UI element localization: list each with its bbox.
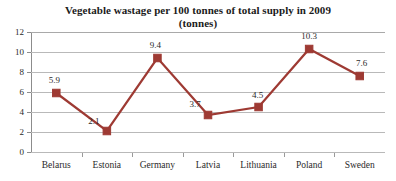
data-point-marker: [305, 45, 313, 53]
data-point-label: 2.1: [74, 117, 114, 126]
y-tick-mark-8: [27, 72, 31, 73]
y-axis-tick-label: 12: [4, 28, 24, 37]
y-axis-tick-label: 4: [4, 108, 24, 117]
y-axis-tick-label: 6: [4, 88, 24, 97]
series-line-and-markers: [0, 0, 396, 181]
data-point-marker: [154, 54, 162, 62]
data-point-label: 5.9: [34, 76, 74, 85]
data-point-label: 4.5: [238, 91, 278, 100]
x-tick-mark: [233, 153, 234, 157]
y-tick-mark-2: [27, 132, 31, 133]
y-axis-tick-label: 2: [4, 128, 24, 137]
x-tick-mark: [82, 153, 83, 157]
y-tick-mark-4: [27, 112, 31, 113]
x-tick-mark: [132, 153, 133, 157]
data-point-label: 3.7: [175, 100, 215, 109]
x-tick-mark: [183, 153, 184, 157]
data-point-label: 7.6: [342, 59, 382, 68]
data-point-label: 10.3: [289, 32, 329, 41]
y-axis-tick-label: 0: [4, 148, 24, 157]
y-tick-mark-10: [27, 52, 31, 53]
y-tick-mark-0: [27, 152, 31, 153]
x-axis-category-label: Sweden: [325, 160, 395, 171]
y-axis-tick-label: 8: [4, 68, 24, 77]
data-point-marker: [53, 89, 61, 97]
data-point-marker: [255, 103, 263, 111]
line-chart: Vegetable wastage per 100 tonnes of tota…: [0, 0, 396, 181]
y-axis-tick-label: 10: [4, 48, 24, 57]
data-point-label: 9.4: [135, 41, 175, 50]
data-point-marker: [356, 72, 364, 80]
x-tick-mark: [284, 153, 285, 157]
data-point-marker: [204, 111, 212, 119]
y-tick-mark-6: [27, 92, 31, 93]
x-tick-mark: [334, 153, 335, 157]
y-tick-mark-12: [27, 32, 31, 33]
data-point-marker: [103, 127, 111, 135]
